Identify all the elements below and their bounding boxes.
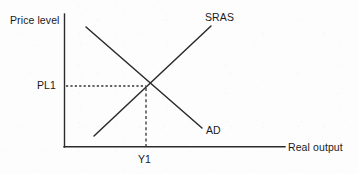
diagram-canvas: Price level SRAS PL1 AD Y1 Real output (0, 0, 359, 174)
equilibrium-price-label: PL1 (37, 80, 56, 91)
ad-curve-label: AD (206, 125, 221, 136)
x-axis-title: Real output (288, 142, 343, 153)
ad-curve (86, 27, 202, 128)
equilibrium-quantity-label: Y1 (138, 154, 151, 165)
sras-curve (94, 26, 211, 136)
y-axis-title: Price level (10, 15, 60, 26)
sras-curve-label: SRAS (205, 12, 234, 23)
